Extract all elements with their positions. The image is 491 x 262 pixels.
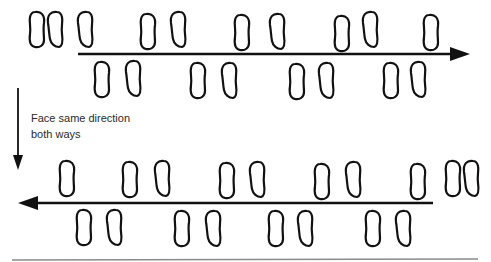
footprint-right-icon: [464, 161, 479, 196]
footprint-left-icon: [411, 164, 426, 199]
footprint-left-icon: [269, 211, 284, 246]
transition: [13, 88, 23, 170]
footprint-left-icon: [424, 15, 439, 50]
down-arrowhead-icon: [13, 155, 23, 170]
footprint-left-icon: [384, 63, 399, 98]
annotation-line-1: Face same direction: [31, 110, 130, 126]
footprint-left-icon: [141, 14, 156, 49]
footprint-right-icon: [155, 161, 170, 196]
footprint-right-icon: [396, 211, 411, 246]
footprint-left-icon: [220, 163, 235, 198]
footprint-left-icon: [235, 15, 250, 50]
start-footprint-pair: [30, 12, 63, 47]
footprint-right-icon: [270, 14, 285, 49]
footprint-left-icon: [175, 211, 190, 246]
footprint-right-icon: [363, 12, 378, 47]
footprint-right-icon: [48, 12, 63, 47]
footprint-left-icon: [95, 62, 110, 97]
left-arrowhead-icon: [18, 196, 38, 210]
direction-annotation: Face same direction both ways: [31, 110, 130, 142]
top-row-footprints-below: [95, 61, 426, 99]
annotation-line-2: both ways: [31, 126, 130, 142]
footprint-left-icon: [335, 16, 350, 51]
footprint-right-icon: [107, 210, 122, 245]
right-arrowhead-icon: [450, 47, 470, 61]
top-pass: [30, 12, 470, 99]
footprint-right-icon: [206, 211, 221, 246]
bottom-pass: [18, 161, 479, 246]
footprint-left-icon: [446, 161, 461, 196]
footprint-right-icon: [298, 211, 313, 246]
footprint-right-icon: [250, 162, 265, 197]
footprint-right-icon: [319, 63, 334, 98]
footprint-left-icon: [290, 64, 305, 99]
bottom-row-footprints-above: [60, 161, 426, 199]
footprint-left-icon: [60, 161, 75, 196]
bottom-rule: [12, 259, 478, 260]
footprint-left-icon: [366, 211, 381, 246]
end-footprint-pair: [446, 161, 479, 196]
footprint-left-icon: [123, 162, 138, 197]
footprint-left-icon: [315, 164, 330, 199]
footprint-right-icon: [171, 12, 186, 47]
footprint-right-icon: [222, 63, 237, 98]
footprint-left-icon: [77, 210, 92, 245]
top-row-footprints-above: [78, 12, 438, 51]
footprint-right-icon: [126, 61, 141, 96]
footprint-right-icon: [411, 62, 426, 97]
footprint-left-icon: [191, 63, 206, 98]
footprint-right-icon: [346, 162, 361, 197]
footprint-left-icon: [30, 12, 45, 47]
bottom-row-footprints-below: [77, 210, 411, 246]
footprint-right-icon: [78, 12, 93, 47]
